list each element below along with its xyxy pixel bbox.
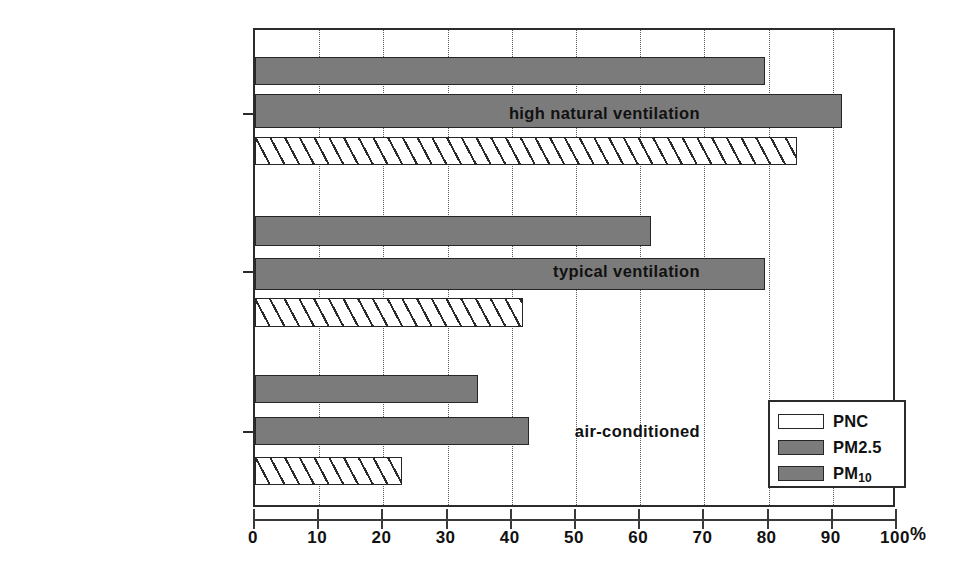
bar-high-natural-ventilation-pnc bbox=[255, 137, 797, 165]
x-tick-label-20: 20 bbox=[351, 528, 411, 548]
legend-item-pm25: PM2.5 bbox=[778, 435, 904, 459]
bar-air-conditioned-pm10 bbox=[255, 375, 478, 403]
legend-swatch-pm25-icon bbox=[778, 440, 824, 455]
bar-typical-ventilation-pnc bbox=[255, 298, 523, 327]
legend-item-pnc: PNC bbox=[778, 409, 904, 433]
x-tick-label-40: 40 bbox=[480, 528, 540, 548]
bar-air-conditioned-pnc bbox=[255, 457, 402, 485]
x-tick-label-30: 30 bbox=[416, 528, 476, 548]
x-tick-label-70: 70 bbox=[672, 528, 732, 548]
x-tick-10 bbox=[317, 509, 319, 529]
legend: PNC PM2.5 PM10 bbox=[768, 400, 906, 488]
x-tick-40 bbox=[510, 509, 512, 529]
x-tick-label-10: 10 bbox=[287, 528, 347, 548]
category-tick-2 bbox=[243, 431, 253, 433]
category-tick-0 bbox=[243, 113, 253, 115]
legend-label-pm10: PM10 bbox=[833, 464, 872, 483]
x-axis-unit-label: % bbox=[910, 524, 926, 545]
legend-label-pnc: PNC bbox=[833, 412, 868, 431]
x-tick-80 bbox=[767, 509, 769, 529]
bar-typical-ventilation-pm10 bbox=[255, 216, 651, 246]
x-tick-60 bbox=[638, 509, 640, 529]
x-tick-label-60: 60 bbox=[608, 528, 668, 548]
bar-high-natural-ventilation-pm10 bbox=[255, 57, 765, 85]
x-tick-90 bbox=[831, 509, 833, 529]
legend-label-pm25: PM2.5 bbox=[833, 438, 882, 457]
x-tick-100 bbox=[895, 509, 897, 529]
legend-swatch-pm10-icon bbox=[778, 466, 824, 481]
category-tick-1 bbox=[243, 271, 253, 273]
legend-label-pm10-subscript: 10 bbox=[858, 471, 872, 485]
x-tick-label-0: 0 bbox=[223, 528, 283, 548]
category-label-high-natural-ventilation: high natural ventilation bbox=[509, 104, 700, 123]
x-tick-label-80: 80 bbox=[737, 528, 797, 548]
x-tick-30 bbox=[446, 509, 448, 529]
bar-air-conditioned-pm25 bbox=[255, 417, 529, 445]
x-tick-0 bbox=[253, 509, 255, 529]
x-tick-label-50: 50 bbox=[544, 528, 604, 548]
category-label-typical-ventilation: typical ventilation bbox=[553, 262, 700, 281]
x-tick-20 bbox=[381, 509, 383, 529]
x-tick-label-90: 90 bbox=[801, 528, 861, 548]
legend-item-pm10: PM10 bbox=[778, 461, 904, 485]
x-tick-50 bbox=[574, 509, 576, 529]
bar-chart: high natural ventilation typical ventila… bbox=[0, 0, 968, 575]
x-tick-70 bbox=[702, 509, 704, 529]
category-label-air-conditioned: air-conditioned bbox=[575, 422, 700, 441]
legend-swatch-pnc-icon bbox=[778, 414, 824, 429]
legend-label-pm10-main: PM bbox=[833, 464, 858, 482]
